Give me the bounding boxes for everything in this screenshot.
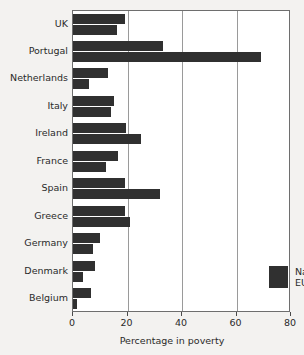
bar-germany-eu xyxy=(73,244,93,254)
category-label-france: France xyxy=(0,155,68,166)
bar-belgium-eu xyxy=(73,299,77,309)
legend-label-eu: EU xyxy=(295,277,304,288)
bar-germany-national xyxy=(73,233,100,243)
legend-swatch-national xyxy=(269,266,288,277)
category-label-belgium: Belgium xyxy=(0,292,68,303)
bar-greece-national xyxy=(73,206,125,216)
bar-ireland-eu xyxy=(73,134,141,144)
bar-group xyxy=(73,68,289,95)
bar-netherlands-national xyxy=(73,68,108,78)
x-tick-mark-0 xyxy=(72,312,73,316)
x-tick-mark-60 xyxy=(236,312,237,316)
bar-belgium-national xyxy=(73,288,91,298)
plot-area: National EU xyxy=(72,10,290,312)
bar-italy-eu xyxy=(73,107,111,117)
bar-spain-eu xyxy=(73,189,160,199)
bar-portugal-national xyxy=(73,41,163,51)
bar-denmark-national xyxy=(73,261,95,271)
x-axis-title: Percentage in poverty xyxy=(0,335,304,346)
x-tick-mark-40 xyxy=(181,312,182,316)
bar-portugal-eu xyxy=(73,52,261,62)
legend-label-national: National xyxy=(295,266,304,277)
category-label-denmark: Denmark xyxy=(0,265,68,276)
category-axis-labels: UKPortugalNetherlandsItalyIrelandFranceS… xyxy=(0,10,68,312)
category-label-italy: Italy xyxy=(0,100,68,111)
bar-group xyxy=(73,151,289,178)
bar-france-eu xyxy=(73,162,106,172)
bar-group xyxy=(73,178,289,205)
bar-uk-national xyxy=(73,14,125,24)
x-tick-label-0: 0 xyxy=(69,317,75,328)
x-tick-mark-80 xyxy=(290,312,291,316)
x-tick-mark-20 xyxy=(127,312,128,316)
bar-netherlands-eu xyxy=(73,79,89,89)
x-axis: 020406080 xyxy=(72,312,290,332)
x-tick-label-40: 40 xyxy=(175,317,187,328)
x-tick-label-20: 20 xyxy=(120,317,132,328)
bar-france-national xyxy=(73,151,118,161)
bar-spain-national xyxy=(73,178,125,188)
bar-denmark-eu xyxy=(73,272,83,282)
bar-group xyxy=(73,14,289,41)
bar-group xyxy=(73,41,289,68)
bar-ireland-national xyxy=(73,123,126,133)
bar-group xyxy=(73,233,289,260)
category-label-netherlands: Netherlands xyxy=(0,72,68,83)
poverty-bar-chart: UKPortugalNetherlandsItalyIrelandFranceS… xyxy=(0,0,304,355)
bar-group xyxy=(73,123,289,150)
bar-italy-national xyxy=(73,96,114,106)
bar-group xyxy=(73,261,289,288)
category-label-spain: Spain xyxy=(0,182,68,193)
legend-swatch-eu xyxy=(269,277,288,288)
category-label-portugal: Portugal xyxy=(0,45,68,56)
category-label-germany: Germany xyxy=(0,237,68,248)
category-label-uk: UK xyxy=(0,18,68,29)
bar-uk-eu xyxy=(73,25,117,35)
category-label-ireland: Ireland xyxy=(0,127,68,138)
bar-group xyxy=(73,206,289,233)
x-tick-label-60: 60 xyxy=(229,317,241,328)
bar-greece-eu xyxy=(73,217,130,227)
bars-layer xyxy=(73,11,289,311)
x-tick-label-80: 80 xyxy=(284,317,296,328)
bar-group xyxy=(73,96,289,123)
chart-legend: National EU xyxy=(269,266,304,300)
category-label-greece: Greece xyxy=(0,210,68,221)
